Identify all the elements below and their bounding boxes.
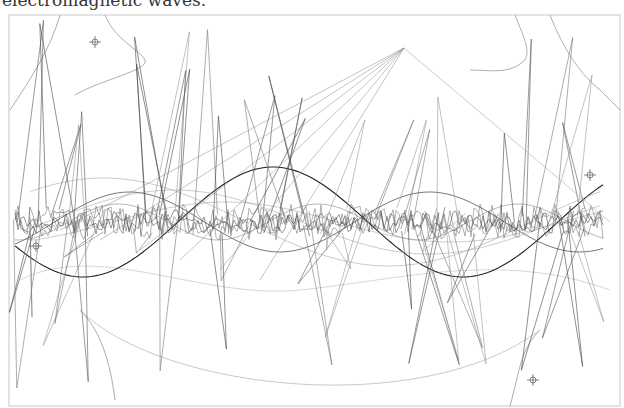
star-marker-icon — [89, 36, 101, 48]
waveform-artwork — [0, 0, 624, 408]
star-marker-icon — [584, 169, 596, 181]
star-marker-icon — [30, 240, 42, 252]
generated-lines — [9, 20, 610, 388]
star-marker-icon — [527, 374, 539, 386]
